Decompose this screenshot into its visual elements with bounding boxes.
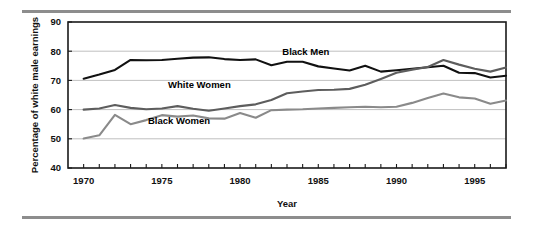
x-tick-label-1995: 1995 xyxy=(464,175,486,186)
x-axis-title: Year xyxy=(277,198,297,209)
x-tick-label-1980: 1980 xyxy=(230,175,251,186)
top-rule xyxy=(22,10,511,13)
series-label-white-women: White Women xyxy=(168,79,231,90)
y-tick-label-60: 60 xyxy=(50,104,61,115)
y-tick-labels-group: 405060708090 xyxy=(50,16,61,173)
y-tick-label-40: 40 xyxy=(50,162,61,173)
x-tick-label-1970: 1970 xyxy=(73,175,94,186)
chart-figure: Black MenWhite WomenBlack Women 40506070… xyxy=(0,0,533,228)
x-tick-labels-group: 197019751980198519901995 xyxy=(73,175,486,186)
y-tick-label-70: 70 xyxy=(50,75,61,86)
plot-area-wrapper: Black MenWhite WomenBlack Women 40506070… xyxy=(0,14,533,214)
x-tick-label-1985: 1985 xyxy=(308,175,330,186)
series-line-black-women xyxy=(84,94,506,139)
bottom-rule xyxy=(22,216,511,219)
y-tick-label-80: 80 xyxy=(50,46,61,57)
line-chart: Black MenWhite WomenBlack Women 40506070… xyxy=(0,14,533,214)
x-tick-label-1990: 1990 xyxy=(386,175,407,186)
series-label-black-men: Black Men xyxy=(282,46,329,57)
series-line-white-women xyxy=(84,60,506,111)
series-label-black-women: Black Women xyxy=(148,115,210,126)
y-tick-label-90: 90 xyxy=(50,16,61,27)
y-axis-title: Percentage of white male earnings xyxy=(29,17,40,173)
x-tick-label-1975: 1975 xyxy=(151,175,173,186)
y-tick-label-50: 50 xyxy=(50,133,61,144)
series-lines-group xyxy=(84,57,506,138)
